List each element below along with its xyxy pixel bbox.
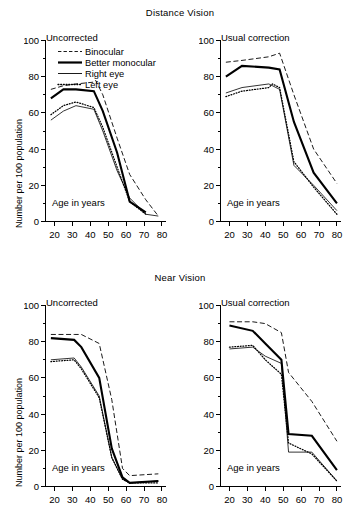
x-tick-label: 70 [314,494,325,505]
y-tick-label: 0 [34,481,39,492]
y-tick-label: 0 [209,481,214,492]
x-tick-label: 30 [67,229,78,240]
plot-lines [229,322,336,481]
y-ticks: 020406080100 [24,300,46,492]
section-title-near-vision: Near Vision [0,272,360,283]
x-tick-label: 30 [242,494,253,505]
y-tick-label: 20 [28,445,39,456]
y-tick-label: 0 [34,216,39,227]
y-ticks: 020406080100 [24,35,46,227]
y-ticks: 020406080100 [199,35,221,227]
chart-distance-usual-correction: 020406080100 20304050607080 Age in years [199,30,345,245]
legend-label-better-monocular: Better monocular [85,58,156,68]
x-tick-label: 20 [49,229,60,240]
x-axis-label-distance-usual: Age in years [227,197,280,208]
x-tick-label: 80 [157,229,168,240]
x-ticks: 20304050607080 [224,222,342,240]
x-ticks: 20304050607080 [49,222,167,240]
x-tick-label: 20 [224,494,235,505]
x-ticks: 20304050607080 [49,487,167,505]
y-axis-label-distance: Number per 100 population [14,119,24,228]
x-tick-label: 30 [67,494,78,505]
y-tick-label: 40 [203,409,214,420]
y-tick-label: 60 [203,107,214,118]
section-near-vision: Near Vision Number per 100 population Un… [0,265,360,523]
y-tick-label: 100 [24,35,39,46]
plot-lines [51,334,158,482]
x-tick-label: 50 [278,494,289,505]
line-better-monocular [229,325,336,470]
panel-caption-uncorrected-near: Uncorrected [46,297,98,308]
legend: Binocular Better monocular Right eye Lef… [58,47,156,90]
line-left-eye [229,345,336,481]
x-tick-label: 30 [242,229,253,240]
y-tick-label: 40 [203,144,214,155]
vision-charts-figure: Distance Vision Number per 100 populatio… [0,0,360,523]
x-tick-label: 60 [296,494,307,505]
y-ticks: 020406080100 [199,300,221,492]
y-tick-label: 0 [209,216,214,227]
panel-distance-uncorrected: Uncorrected 020406080100 20304050607080 … [24,30,170,245]
x-tick-label: 20 [224,229,235,240]
y-tick-label: 60 [28,107,39,118]
panel-caption-uncorrected: Uncorrected [46,32,98,43]
line-binocular [51,80,158,216]
panel-distance-usual-correction: Usual correction 020406080100 2030405060… [199,30,345,245]
chart-near-uncorrected: 020406080100 20304050607080 Age in years [24,295,170,507]
x-axis-label-near-uncorrected: Age in years [52,462,105,473]
legend-label-left-eye: Left eye [85,80,118,90]
x-tick-label: 60 [296,229,307,240]
y-axis-label-near: Number per 100 population [14,378,24,487]
y-tick-label: 40 [28,409,39,420]
panel-near-uncorrected: Uncorrected 020406080100 20304050607080 … [24,295,170,507]
y-tick-label: 80 [203,336,214,347]
x-tick-label: 40 [85,494,96,505]
panel-caption-usual-correction-near: Usual correction [221,297,290,308]
legend-label-binocular: Binocular [85,47,124,57]
x-tick-label: 50 [103,229,114,240]
x-axis-label-distance-uncorrected: Age in years [52,197,105,208]
x-tick-label: 50 [278,229,289,240]
line-better-monocular [51,89,146,212]
x-tick-label: 50 [103,494,114,505]
plot-lines [226,53,337,214]
y-tick-label: 100 [24,300,39,311]
line-better-monocular [226,66,337,204]
x-tick-label: 40 [85,229,96,240]
x-axis-label-near-usual: Age in years [227,462,280,473]
chart-distance-uncorrected: 020406080100 20304050607080 Binocular Be… [24,30,170,245]
y-tick-label: 80 [28,71,39,82]
y-tick-label: 80 [203,71,214,82]
line-right-eye [226,84,337,211]
x-tick-label: 80 [157,494,168,505]
x-tick-label: 70 [139,494,150,505]
x-tick-label: 60 [121,229,132,240]
x-tick-label: 20 [49,494,60,505]
axes [46,306,166,487]
y-tick-label: 20 [203,180,214,191]
chart-near-usual-correction: 020406080100 20304050607080 Age in years [199,295,345,507]
section-distance-vision: Distance Vision Number per 100 populatio… [0,0,360,265]
y-tick-label: 80 [28,336,39,347]
legend-label-right-eye: Right eye [85,69,124,79]
plot-lines [51,80,158,216]
line-left-eye [226,84,337,214]
y-tick-label: 60 [203,372,214,383]
section-title-distance-vision: Distance Vision [0,7,360,18]
y-tick-label: 60 [28,372,39,383]
y-tick-label: 100 [199,35,214,46]
y-tick-label: 40 [28,144,39,155]
x-tick-label: 80 [332,229,343,240]
x-ticks: 20304050607080 [224,487,342,505]
panel-caption-usual-correction: Usual correction [221,32,290,43]
x-tick-label: 40 [260,229,271,240]
x-tick-label: 80 [332,494,343,505]
x-tick-label: 40 [260,494,271,505]
y-tick-label: 20 [203,445,214,456]
x-tick-label: 70 [139,229,150,240]
x-tick-label: 70 [314,229,325,240]
x-tick-label: 60 [121,494,132,505]
panel-near-usual-correction: Usual correction 020406080100 2030405060… [199,295,345,507]
y-tick-label: 20 [28,180,39,191]
y-tick-label: 100 [199,300,214,311]
